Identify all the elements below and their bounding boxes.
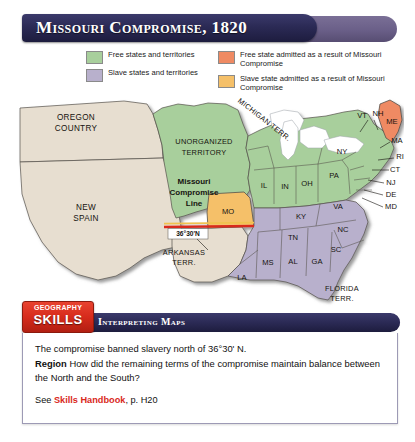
- geography-skills-badge-line1: GEOGRAPHY: [23, 304, 93, 312]
- legend-swatch-slave-states: [86, 69, 103, 82]
- state-label-IL: IL: [261, 181, 267, 190]
- label-unorganized-territory-line1: UNORGANIZED: [175, 137, 232, 146]
- state-label-CT: CT: [390, 165, 400, 174]
- state-label-NJ: NJ: [386, 178, 395, 187]
- state-label-AL: AL: [288, 257, 297, 266]
- legend-column-left: Free states and territories Slave states…: [86, 50, 211, 86]
- region-new-spain: [20, 158, 182, 280]
- geography-skills-badge: GEOGRAPHY SKILLS: [22, 301, 94, 333]
- legend-swatch-free-state-admitted: [218, 51, 235, 64]
- legend-label-slave-states: Slave states and territories: [108, 68, 198, 77]
- legend-item-slave-states: Slave states and territories: [86, 68, 211, 82]
- label-new-spain-line1: NEW: [76, 203, 96, 212]
- see-handbook-line: See Skills Handbook, p. H20: [35, 395, 158, 405]
- label-compromise-line-2: Compromise: [170, 188, 219, 197]
- question-prompt: How did the remaining terms of the compr…: [35, 358, 380, 384]
- question-text: The compromise banned slavery north of 3…: [35, 342, 387, 386]
- label-arkansas-territory-line2: TERR.: [172, 258, 195, 267]
- skills-banner: Interpreting Maps GEOGRAPHY SKILLS: [22, 311, 400, 333]
- geography-skills-badge-line2: SKILLS: [23, 312, 93, 327]
- state-label-MO: MO: [222, 207, 234, 216]
- label-latitude-36-30: 36°30'N: [176, 230, 200, 237]
- legend-label-free-states: Free states and territories: [108, 50, 195, 59]
- question-prompt-label: Region: [35, 358, 67, 369]
- title-banner: Missouri Compromise, 1820: [22, 14, 397, 44]
- state-label-GA: GA: [312, 257, 324, 266]
- legend-item-free-state-admitted: Free state admitted as a result of Misso…: [218, 50, 408, 69]
- state-label-TN: TN: [288, 233, 298, 242]
- question-box: The compromise banned slavery north of 3…: [22, 333, 398, 424]
- legend-item-free-states: Free states and territories: [86, 50, 211, 64]
- state-label-SC: SC: [331, 245, 342, 254]
- state-label-RI: RI: [396, 152, 404, 161]
- missouri-compromise-figure: Missouri Compromise, 1820 Free states an…: [0, 0, 415, 442]
- state-label-NH: NH: [373, 109, 384, 118]
- legend-swatch-free-states: [86, 51, 103, 64]
- state-label-NY: NY: [337, 147, 348, 156]
- state-label-MA: MA: [391, 136, 403, 145]
- map-graphic: OREGON COUNTRY NEW SPAIN UNORGANIZED TER…: [12, 90, 404, 308]
- skills-banner-label: Interpreting Maps: [98, 316, 185, 327]
- label-unorganized-territory-line2: TERRITORY: [182, 148, 227, 157]
- state-label-PA: PA: [329, 171, 340, 180]
- label-new-spain-line2: SPAIN: [73, 214, 98, 223]
- see-prefix: See: [35, 395, 54, 405]
- label-compromise-line-3: Line: [186, 199, 203, 208]
- page-title: Missouri Compromise, 1820: [36, 18, 247, 38]
- label-florida-territory-line2: TERR.: [330, 294, 353, 303]
- label-arkansas-territory-line1: ARKANSAS: [163, 248, 205, 257]
- state-label-IN: IN: [281, 182, 289, 191]
- label-florida-territory-line1: FLORIDA: [325, 284, 359, 293]
- state-label-DE: DE: [386, 190, 397, 199]
- state-label-MS: MS: [262, 258, 273, 267]
- question-statement: The compromise banned slavery north of 3…: [35, 343, 246, 354]
- legend-label-free-state-admitted: Free state admitted as a result of Misso…: [240, 50, 408, 69]
- legend-swatch-slave-state-admitted: [218, 75, 235, 88]
- state-label-ME: ME: [386, 117, 397, 126]
- state-label-VT: VT: [357, 111, 367, 120]
- state-label-NC: NC: [338, 225, 349, 234]
- skills-handbook-link[interactable]: Skills Handbook: [54, 395, 125, 405]
- label-compromise-line-1: Missouri: [178, 177, 211, 186]
- state-label-OH: OH: [301, 179, 312, 188]
- see-suffix: , p. H20: [125, 395, 157, 405]
- state-label-LA: LA: [237, 273, 247, 282]
- label-oregon-country-line1: OREGON: [57, 113, 95, 122]
- state-label-KY: KY: [296, 212, 306, 221]
- state-label-VA: VA: [333, 202, 344, 211]
- label-oregon-country-line2: COUNTRY: [55, 124, 98, 133]
- state-label-MD: MD: [385, 202, 397, 211]
